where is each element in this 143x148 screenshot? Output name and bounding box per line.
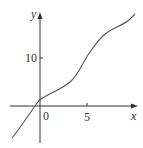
x-axis-label: x — [131, 110, 136, 122]
origin-label: 0 — [43, 110, 49, 122]
x-tick-label-5: 5 — [84, 111, 90, 123]
y-axis-label: y — [31, 8, 36, 20]
y-axis-arrow-icon — [38, 12, 43, 19]
y-axis — [38, 12, 44, 143]
x-axis — [10, 103, 138, 109]
function-curve — [12, 14, 135, 138]
y-tick-label-10: 10 — [25, 52, 37, 64]
chart-canvas — [0, 0, 143, 148]
x-axis-arrow-icon — [131, 104, 138, 109]
